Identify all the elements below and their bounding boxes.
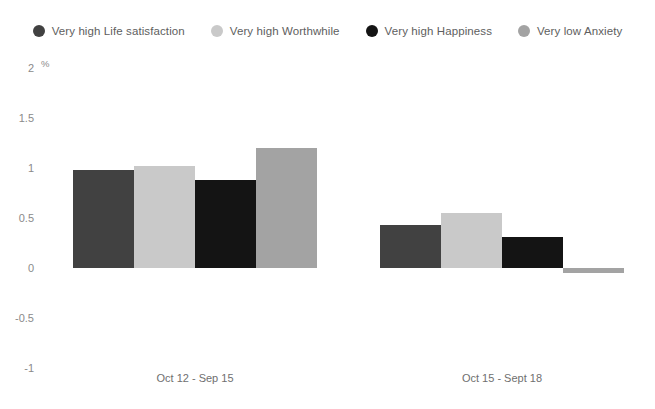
chart-legend: Very high Life satisfaction Very high Wo…	[0, 20, 655, 42]
y-axis-tick-label: 0	[28, 262, 34, 274]
legend-swatch-icon	[518, 25, 530, 37]
legend-item-label: Very high Life satisfaction	[52, 25, 185, 37]
legend-swatch-icon	[211, 25, 223, 37]
y-axis-tick-label: 0.5	[19, 212, 34, 224]
y-axis-tick-label: 1.5	[19, 112, 34, 124]
legend-item-happiness[interactable]: Very high Happiness	[366, 25, 492, 37]
y-axis: 21.510.50-0.5-1	[0, 58, 38, 368]
bar[interactable]	[134, 166, 195, 268]
x-axis-tick-label: Oct 12 - Sep 15	[156, 372, 233, 384]
bar[interactable]	[441, 213, 502, 268]
x-axis-tick-label: Oct 15 - Sept 18	[462, 372, 542, 384]
plot-area	[40, 68, 652, 368]
legend-item-life-satisfaction[interactable]: Very high Life satisfaction	[33, 25, 185, 37]
bar[interactable]	[380, 225, 441, 268]
bar[interactable]	[73, 170, 134, 268]
bar[interactable]	[195, 180, 256, 268]
bar[interactable]	[563, 268, 624, 273]
bar-chart: Very high Life satisfaction Very high Wo…	[0, 0, 655, 409]
y-axis-tick-label: 1	[28, 162, 34, 174]
bar[interactable]	[256, 148, 317, 268]
legend-item-label: Very low Anxiety	[537, 25, 622, 37]
bar[interactable]	[502, 237, 563, 268]
legend-item-label: Very high Worthwhile	[230, 25, 340, 37]
x-axis: Oct 12 - Sep 15Oct 15 - Sept 18	[0, 372, 655, 392]
legend-item-anxiety[interactable]: Very low Anxiety	[518, 25, 622, 37]
legend-swatch-icon	[366, 25, 378, 37]
y-axis-tick-label: -0.5	[15, 312, 34, 324]
legend-swatch-icon	[33, 25, 45, 37]
legend-item-worthwhile[interactable]: Very high Worthwhile	[211, 25, 340, 37]
y-axis-tick-label: 2	[28, 62, 34, 74]
legend-item-label: Very high Happiness	[385, 25, 492, 37]
